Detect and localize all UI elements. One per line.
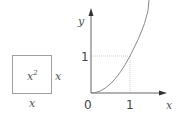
- y-tick-label: 1: [81, 50, 89, 64]
- square-area-label: x2: [27, 69, 38, 83]
- square-side-right-label: x: [55, 70, 62, 83]
- origin-label: 0: [84, 98, 92, 112]
- x-axis-label: x: [166, 99, 173, 112]
- x-tick-label: 1: [126, 98, 134, 112]
- y-axis-arrow-icon: [89, 8, 94, 16]
- x-axis-arrow-icon: [159, 91, 167, 96]
- square-side-bottom-label: x: [29, 97, 36, 110]
- parabola-curve: [91, 0, 149, 93]
- y-axis-label: y: [77, 15, 85, 28]
- diagram-canvas: x2 x x y 1 0 1 x: [0, 0, 183, 118]
- area-square: x2 x x: [13, 56, 63, 111]
- parabola-graph: y 1 0 1 x: [77, 0, 173, 112]
